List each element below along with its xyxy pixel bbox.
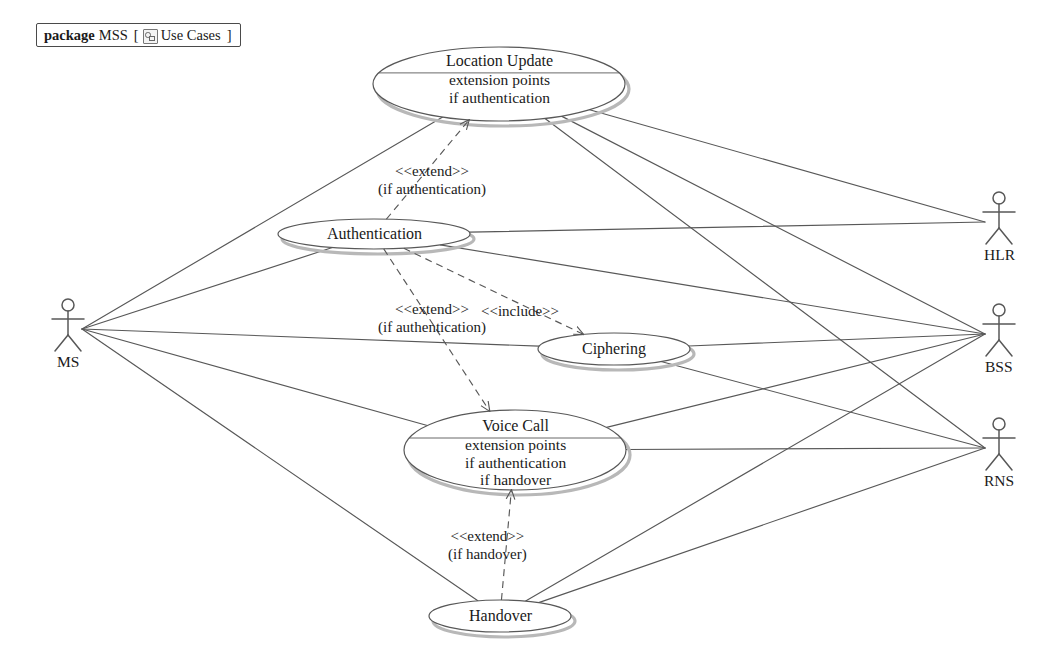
bracket-close: ] (227, 28, 232, 43)
relation-stereotype-extend-handover-to-voice-call: <<extend>> (448, 527, 527, 545)
actor-head-bss (993, 304, 1005, 316)
relation-condition-extend-auth-to-voice-call: (if authentication) (378, 318, 486, 336)
relation-label-extend-handover-to-voice-call: <<extend>>(if handover) (448, 527, 527, 563)
diagram-vector-layer (0, 0, 1056, 670)
relation-label-extend-auth-to-location-update: <<extend>>(if authentication) (378, 162, 486, 198)
use-case-voice-call[interactable] (404, 410, 630, 495)
actor-leg-right-ms (68, 335, 81, 351)
relation-label-include-auth-to-ciphering: <<include>> (481, 302, 559, 320)
actor-leg-right-bss (999, 340, 1012, 356)
association-line-rns-voice-call (626, 448, 985, 450)
package-name: MSS (99, 28, 128, 43)
association-line-bss-authentication (440, 245, 985, 334)
actor-leg-left-rns (986, 454, 999, 470)
use-case-handover[interactable] (429, 600, 575, 637)
actor-leg-right-rns (999, 454, 1012, 470)
package-keyword: package (44, 28, 95, 43)
actor-head-rns (993, 418, 1005, 430)
actor-rns[interactable] (983, 418, 1015, 470)
use-case-authentication[interactable] (278, 219, 474, 254)
association-line-hlr-authentication (469, 222, 985, 232)
use-case-location-update[interactable] (373, 47, 629, 126)
relation-stereotype-extend-auth-to-location-update: <<extend>> (378, 162, 486, 180)
association-line-rns-location-update (545, 118, 985, 448)
diagram-icon (143, 29, 158, 44)
actor-label-bss: BSS (985, 358, 1013, 376)
actor-ms[interactable] (52, 299, 84, 351)
actor-hlr[interactable] (983, 192, 1015, 244)
association-line-ms-authentication (82, 248, 332, 329)
use-case-diagram-canvas: package MSS [ Use Cases ] Location Updat… (0, 0, 1056, 670)
association-lines-group (82, 110, 985, 603)
actor-label-hlr: HLR (984, 246, 1015, 264)
diagram-name: Use Cases (161, 28, 221, 43)
use-case-ellipse-location-update[interactable] (373, 47, 625, 121)
actor-head-hlr (993, 192, 1005, 204)
package-header: package MSS [ Use Cases ] (36, 23, 241, 47)
actor-head-ms (62, 299, 74, 311)
use-case-ellipse-voice-call[interactable] (404, 410, 626, 490)
association-line-bss-location-update (561, 116, 985, 334)
association-line-ms-voice-call (82, 329, 427, 425)
relation-stereotype-extend-auth-to-voice-call: <<extend>> (378, 300, 486, 318)
actor-leg-right-hlr (999, 228, 1012, 244)
use-case-ellipse-ciphering[interactable] (538, 333, 690, 365)
relation-condition-extend-auth-to-location-update: (if authentication) (378, 180, 486, 198)
use-case-ellipse-handover[interactable] (429, 600, 571, 632)
relation-condition-extend-handover-to-voice-call: (if handover) (448, 545, 527, 563)
actor-label-rns: RNS (984, 472, 1014, 490)
association-line-hlr-location-update (590, 110, 985, 222)
association-line-bss-ciphering (689, 334, 985, 346)
actor-leg-left-bss (986, 340, 999, 356)
use-case-ciphering[interactable] (538, 333, 694, 370)
relation-stereotype-include-auth-to-ciphering: <<include>> (481, 302, 559, 320)
relation-label-extend-auth-to-voice-call: <<extend>>(if authentication) (378, 300, 486, 336)
actor-label-ms: MS (57, 353, 79, 371)
actor-leg-left-ms (55, 335, 68, 351)
actor-leg-left-hlr (986, 228, 999, 244)
bracket-open: [ (134, 28, 139, 43)
use-case-ellipse-authentication[interactable] (278, 219, 470, 249)
actor-bss[interactable] (983, 304, 1015, 356)
